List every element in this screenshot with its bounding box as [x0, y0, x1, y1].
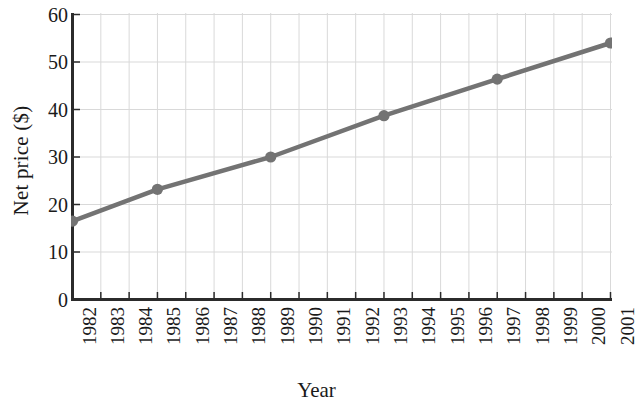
x-tick-label: 1996 — [476, 305, 495, 343]
x-axis-title: Year — [0, 378, 633, 403]
x-tick-label: 1989 — [278, 305, 297, 343]
x-tick-label: 1997 — [504, 305, 523, 343]
y-tick-label: 40 — [28, 100, 68, 120]
plot-area — [71, 13, 612, 301]
x-tick-label: 1986 — [193, 305, 212, 343]
x-tick-label: 1993 — [391, 305, 410, 343]
x-tick-label: 1982 — [80, 305, 99, 343]
x-axis-tick-labels: 1982198319841985198619871988198919901991… — [71, 305, 612, 375]
x-tick-label: 1988 — [249, 305, 268, 343]
y-tick-label: 60 — [28, 5, 68, 25]
y-tick-label: 30 — [28, 147, 68, 167]
data-point — [605, 37, 612, 48]
x-tick-label: 2001 — [618, 305, 637, 343]
data-point — [265, 151, 276, 162]
x-tick-label: 1991 — [334, 305, 353, 343]
x-tick-label: 1987 — [221, 305, 240, 343]
y-axis-tick-labels: 0102030405060 — [26, 0, 68, 413]
x-tick-label: 2000 — [589, 305, 608, 343]
y-tick-label: 20 — [28, 195, 68, 215]
gridlines — [73, 13, 613, 300]
x-tick-label: 1992 — [363, 305, 382, 343]
data-point — [378, 110, 389, 121]
x-tick-label: 1984 — [136, 305, 155, 343]
y-tick-label: 10 — [28, 242, 68, 262]
data-point — [492, 74, 503, 85]
x-tick-label: 1994 — [419, 305, 438, 343]
data-point — [152, 184, 163, 195]
x-tick-label: 1985 — [164, 305, 183, 343]
x-tick-label: 1999 — [561, 305, 580, 343]
y-tick-label: 50 — [28, 52, 68, 72]
series-line — [73, 43, 611, 221]
x-tick-label: 1983 — [108, 305, 127, 343]
x-tick-label: 1995 — [448, 305, 467, 343]
y-tick-label: 0 — [28, 290, 68, 310]
x-tick-label: 1998 — [533, 305, 552, 343]
x-tick-label: 1990 — [306, 305, 325, 343]
